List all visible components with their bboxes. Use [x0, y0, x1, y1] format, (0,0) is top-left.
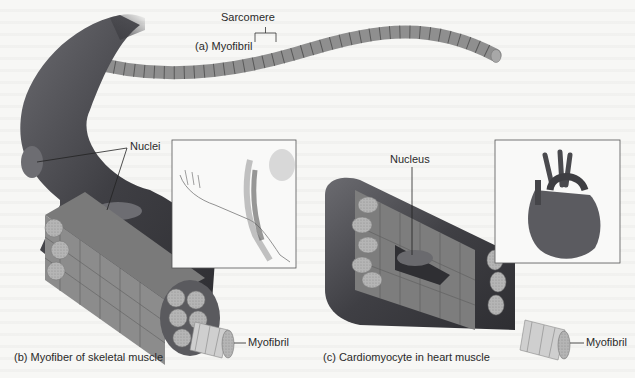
arm-inset	[172, 140, 296, 268]
myofibril-label-b: Myofibril	[248, 336, 289, 348]
heart-inset	[495, 140, 620, 263]
myofibril-label-c: Myofibril	[586, 336, 627, 348]
sarcomere-label: Sarcomere	[221, 11, 275, 23]
panel-c-caption: (c) Cardiomyocyte in heart muscle	[323, 351, 490, 363]
myofibril-a	[85, 27, 501, 73]
nucleus-label: Nucleus	[390, 153, 430, 165]
panel-a-caption: (a) Myofibril	[195, 40, 252, 52]
panel-b-caption: (b) Myofiber of skeletal muscle	[14, 351, 163, 363]
nuclei-label: Nuclei	[130, 140, 161, 152]
muscle-diagram	[0, 0, 635, 378]
